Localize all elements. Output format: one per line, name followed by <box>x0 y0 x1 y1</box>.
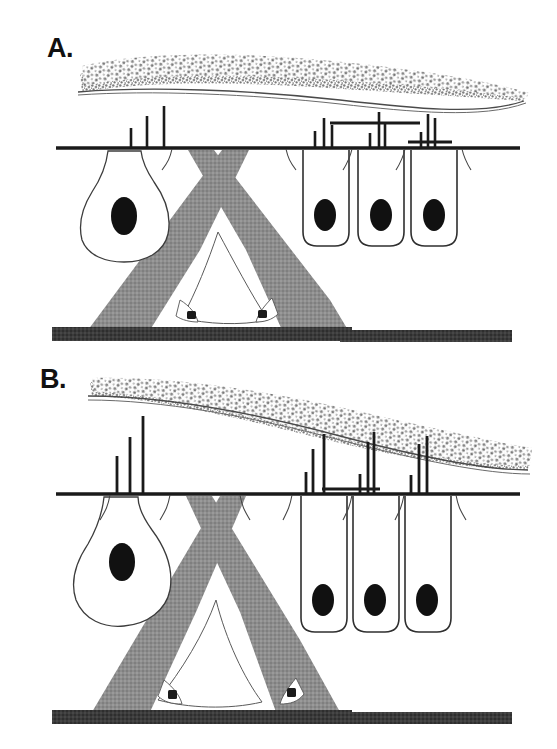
basement-membrane-b <box>52 710 512 724</box>
type-one-hair-cell-a <box>80 151 169 262</box>
spike-train-left-b <box>117 416 143 494</box>
tectorial-membrane-b <box>88 378 532 474</box>
panel-b <box>52 378 532 724</box>
panel-label-a: A. <box>47 35 73 62</box>
basement-membrane-a <box>52 327 512 342</box>
type-two-hair-cell-3 <box>405 496 451 632</box>
panel-a <box>52 55 529 343</box>
type-two-hair-cells-a <box>303 150 457 246</box>
diagram-svg <box>0 0 557 749</box>
panel-label-b: B. <box>40 366 66 393</box>
spike-train-left-a <box>131 106 164 148</box>
type-two-hair-cells-b <box>301 496 451 632</box>
type-two-hair-cell-1 <box>301 496 347 632</box>
type-one-hair-cell-b <box>74 497 171 626</box>
type-two-hair-cell-2 <box>353 496 399 632</box>
type-two-hair-cell-2 <box>358 150 404 246</box>
type-two-hair-cell-3 <box>411 150 457 246</box>
type-two-hair-cell-1 <box>303 150 349 246</box>
figure-canvas: A. B. <box>0 0 557 749</box>
tectorial-membrane-a <box>78 55 529 113</box>
